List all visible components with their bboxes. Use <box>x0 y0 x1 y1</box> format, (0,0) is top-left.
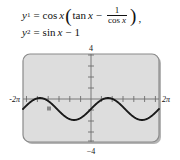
cos-argument-denominator: x <box>122 15 126 25</box>
y-min-label: −4 <box>87 147 96 156</box>
fraction-denominator: cosx <box>107 16 127 25</box>
equation-y1: y1 = cos x ( tan x − 1 cosx ) , <box>0 6 180 25</box>
y1-equals: = <box>33 10 39 22</box>
equation-block: y1 = cos x ( tan x − 1 cosx ) , y2 = sin… <box>0 6 180 39</box>
y-max-label: 4 <box>89 44 93 53</box>
y2-subscript: 2 <box>27 29 31 36</box>
trace-cursor <box>47 107 51 111</box>
sin-argument: x <box>57 27 62 39</box>
fraction-numerator: 1 <box>113 6 122 15</box>
close-paren: ) <box>130 9 136 22</box>
plot-svg: 4 −4 -2π 2π <box>0 44 180 160</box>
fraction-one-over-cos-x: 1 cosx <box>107 6 127 25</box>
cos-argument-outer: x <box>59 10 64 22</box>
textbook-figure: y1 = cos x ( tan x − 1 cosx ) , y2 = sin… <box>0 0 180 160</box>
cos-function-denominator: cos <box>108 15 120 25</box>
equation-y2: y2 = sin x − 1 <box>0 27 180 39</box>
tan-argument: x <box>88 10 93 22</box>
x-max-label: 2π <box>162 95 171 104</box>
cos-function-outer: cos <box>43 10 58 22</box>
graph-plot: 4 −4 -2π 2π <box>0 44 180 160</box>
minus-sign: − <box>96 10 102 22</box>
y2-equals: = <box>33 27 39 39</box>
open-paren: ( <box>65 9 71 22</box>
y2-minus-sign: − <box>65 27 71 39</box>
sin-function: sin <box>43 27 56 39</box>
y1-subscript: 1 <box>27 12 31 19</box>
y2-constant: 1 <box>75 27 81 39</box>
trailing-comma: , <box>138 13 141 25</box>
tan-function: tan <box>73 10 86 22</box>
x-min-label: -2π <box>9 95 21 104</box>
